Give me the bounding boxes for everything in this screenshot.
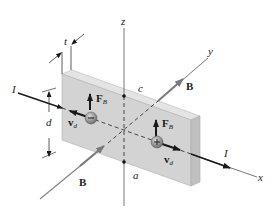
slab-side-face xyxy=(191,116,200,186)
z-axis-label: z xyxy=(121,16,125,27)
negative-charge xyxy=(85,112,97,124)
current-arrow-left xyxy=(18,93,62,108)
velocity-label-right: vd xyxy=(164,154,173,167)
current-label-left: I xyxy=(12,84,16,95)
point-a-label: a xyxy=(133,170,139,181)
point-c xyxy=(122,94,126,98)
positive-charge xyxy=(151,136,163,148)
force-label-left: FB xyxy=(96,93,107,106)
thickness-label: t xyxy=(64,36,67,47)
b-field-arrow-top xyxy=(158,79,183,101)
x-axis-label: x xyxy=(258,172,263,183)
b-field-label-bottom: B xyxy=(79,177,86,188)
height-label: d xyxy=(46,117,52,128)
velocity-label-left: vd xyxy=(68,117,77,130)
current-label-right: I xyxy=(224,148,228,159)
force-label-right: FB xyxy=(162,118,173,131)
y-axis-label: y xyxy=(208,46,213,57)
point-c-label: c xyxy=(138,83,143,94)
point-a xyxy=(122,160,126,164)
b-field-label-top: B xyxy=(186,81,193,92)
